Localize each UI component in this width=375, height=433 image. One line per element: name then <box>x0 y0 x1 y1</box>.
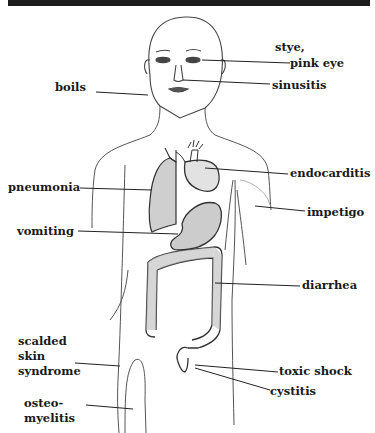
label-vomiting: vomiting <box>17 224 74 239</box>
label-line: syndrome <box>18 364 81 379</box>
stomach <box>171 203 222 250</box>
head-outline <box>145 17 226 118</box>
label-line: osteo- <box>24 396 75 411</box>
label-impetigo: impetigo <box>307 205 364 220</box>
label-sinusitis: sinusitis <box>272 78 327 93</box>
label-pink-eye: pink eye <box>290 56 344 71</box>
label-line: myelitis <box>24 411 75 426</box>
lung <box>149 158 176 232</box>
label-osteomyelitis: osteo- myelitis <box>24 396 75 426</box>
label-diarrhea: diarrhea <box>302 278 357 293</box>
label-pneumonia: pneumonia <box>8 180 80 195</box>
label-endocarditis: endocarditis <box>290 166 370 181</box>
label-stye: stye, <box>275 40 305 55</box>
torso-outline <box>92 106 271 433</box>
intestine-shading <box>146 247 222 330</box>
label-cystitis: cystitis <box>270 384 316 399</box>
heart <box>184 160 219 191</box>
label-boils: boils <box>55 80 86 95</box>
label-toxic-shock: toxic shock <box>279 364 352 379</box>
label-scalded-skin-syndrome: scalded skin syndrome <box>18 334 81 379</box>
label-line: skin <box>18 349 81 364</box>
label-line: scalded <box>18 334 81 349</box>
